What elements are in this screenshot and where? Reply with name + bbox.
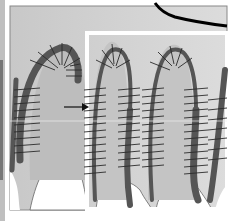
main-panel — [10, 3, 227, 210]
figure — [0, 0, 229, 221]
left-strip — [0, 0, 5, 221]
